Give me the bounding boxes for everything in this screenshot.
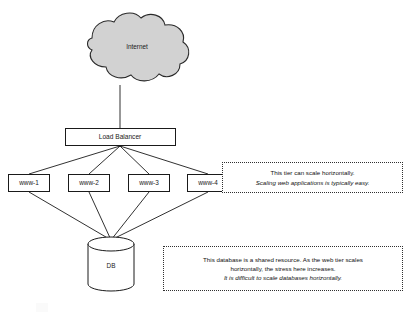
note-database-line-3: It is difficult to scale databases horiz… bbox=[224, 273, 342, 282]
node-database-label: DB bbox=[107, 262, 116, 269]
edge-www-4-to-db bbox=[111, 192, 208, 240]
node-load-balancer-label: Load Balancer bbox=[99, 133, 142, 140]
scan-artifact bbox=[36, 303, 48, 312]
node-internet[interactable]: Internet bbox=[88, 13, 189, 81]
edge-www-3-to-db bbox=[111, 192, 149, 240]
edges-load-balancer-to-web-tier bbox=[29, 146, 208, 174]
note-web-tier: This tier can scale horizontally. Scalin… bbox=[222, 162, 403, 193]
edge-www-1-to-db bbox=[29, 192, 111, 240]
database-cylinder-top bbox=[88, 237, 134, 251]
node-www-1[interactable]: www-1 bbox=[9, 175, 50, 192]
note-database-line-2: horizontally, the stress here increases. bbox=[230, 264, 335, 273]
note-database: This database is a shared resource. As t… bbox=[163, 246, 403, 291]
note-web-tier-line-2: Scaling web applications is typically ea… bbox=[256, 178, 370, 187]
node-www-3[interactable]: www-3 bbox=[129, 175, 170, 192]
edges-web-tier-to-database bbox=[29, 192, 208, 240]
node-www-4-label: www-4 bbox=[197, 179, 218, 186]
edge-lb-to-www-1 bbox=[29, 146, 120, 174]
node-www-1-label: www-1 bbox=[18, 179, 39, 186]
architecture-diagram: Internet Load Balancer www-1 www-2 www-3 bbox=[0, 0, 410, 319]
edge-lb-to-www-2 bbox=[89, 146, 120, 174]
edge-www-2-to-db bbox=[89, 192, 111, 240]
node-internet-label: Internet bbox=[126, 43, 148, 50]
node-database[interactable]: DB bbox=[88, 237, 134, 291]
note-web-tier-line-1: This tier can scale horizontally. bbox=[270, 168, 354, 177]
edge-lb-to-www-4 bbox=[120, 146, 208, 174]
node-www-2-label: www-2 bbox=[78, 179, 99, 186]
node-www-2[interactable]: www-2 bbox=[69, 175, 110, 192]
node-www-3-label: www-3 bbox=[138, 179, 159, 186]
note-database-line-1: This database is a shared resource. As t… bbox=[203, 255, 363, 264]
node-load-balancer[interactable]: Load Balancer bbox=[66, 129, 176, 146]
